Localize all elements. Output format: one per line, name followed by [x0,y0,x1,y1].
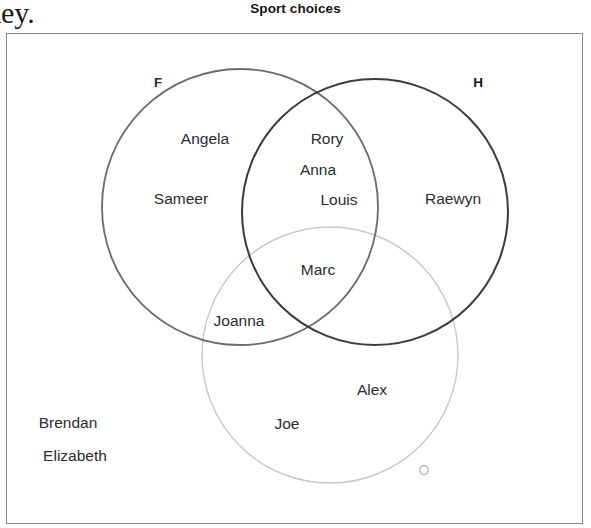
member-label-raewyn: Raewyn [425,190,481,208]
member-label-elizabeth: Elizabeth [43,447,107,465]
member-label-marc: Marc [301,261,335,279]
member-label-rory: Rory [311,130,344,148]
set-label-f: F [154,75,162,90]
member-label-alex: Alex [357,381,387,399]
member-label-brendan: Brendan [39,414,98,432]
set-label-o: O [419,462,430,478]
member-label-sameer: Sameer [154,190,208,208]
member-label-anna: Anna [300,161,336,179]
member-label-joe: Joe [275,415,300,433]
member-label-angela: Angela [181,130,229,148]
set-label-h: H [473,75,483,90]
set-circle-h [242,79,508,345]
member-label-louis: Louis [320,191,357,209]
member-label-joanna: Joanna [214,312,265,330]
